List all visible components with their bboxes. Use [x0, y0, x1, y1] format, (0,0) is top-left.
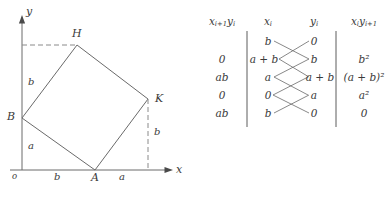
- y-axis-label: y: [26, 6, 32, 17]
- table-row: (a + b)²: [344, 72, 385, 83]
- vertex-label-H: H: [72, 28, 82, 39]
- table-row: b: [265, 108, 272, 119]
- segment-label-a-lower: a: [28, 141, 34, 151]
- table-row: 0: [311, 36, 318, 47]
- table-header-xiyi1: xiyi+1: [351, 16, 377, 28]
- cross-connector-lines: [273, 41, 309, 113]
- table-row: a: [311, 90, 317, 101]
- y-axis: [19, 15, 25, 170]
- segment-label-b-xaxis: b: [54, 172, 60, 182]
- shoelace-table: xi+1yi xi yi xiyi+1 0 ab 0 ab b a + b a …: [196, 0, 392, 206]
- vertex-label-K: K: [155, 93, 163, 104]
- table-row: a + b: [306, 72, 334, 83]
- table-header-xi: xi: [264, 16, 272, 28]
- table-row: 0: [219, 54, 226, 65]
- table-row: 0: [311, 108, 318, 119]
- table-row: a²: [359, 90, 369, 101]
- x-axis-label: x: [176, 164, 182, 175]
- segment-label-a-xaxis: a: [119, 172, 125, 182]
- table-row: 0: [219, 90, 226, 101]
- table-row: b: [311, 54, 318, 65]
- vertex-label-B: B: [7, 111, 15, 122]
- table-row: a + b: [250, 54, 278, 65]
- figure-root: H K A B y x o b a b a b: [0, 0, 392, 206]
- segment-label-b-upper: b: [28, 77, 34, 87]
- table-header-xi1yi: xi+1yi: [209, 16, 235, 28]
- table-row: ab: [216, 108, 229, 119]
- segment-label-b-right: b: [154, 127, 160, 137]
- table-row: b: [265, 36, 272, 47]
- table-row: ab: [216, 72, 229, 83]
- vertex-label-A: A: [91, 172, 99, 183]
- table-row: b²: [359, 54, 370, 65]
- square-BHKA: [22, 45, 148, 170]
- geometry-diagram: H K A B y x o b a b a b: [0, 0, 196, 206]
- table-row: 0: [361, 108, 368, 119]
- table-canvas: [196, 0, 392, 206]
- origin-label: o: [12, 172, 17, 181]
- table-row: 0: [265, 90, 272, 101]
- table-header-yi: yi: [310, 16, 318, 28]
- table-row: a: [265, 72, 271, 83]
